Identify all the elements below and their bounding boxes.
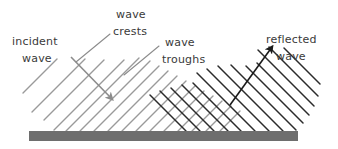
reflected-wavefront <box>207 69 269 131</box>
leader-line-group <box>76 34 159 75</box>
reflected-direction-arrow <box>230 47 272 105</box>
wave-crests-label-line2: crests <box>113 25 147 38</box>
incident-wave-label-line2: wave <box>22 52 52 65</box>
incident-wavefront <box>150 86 195 131</box>
incident-wavefront <box>32 59 85 112</box>
label-group: incident wave wave crests wave troughs r… <box>12 8 317 66</box>
wave-crests-label-line1: wave <box>116 8 146 21</box>
incident-wavefront <box>54 60 124 130</box>
reflected-wavefront <box>246 66 303 123</box>
reflected-wavefront <box>193 83 241 131</box>
wave-troughs-label-line1: wave <box>165 36 195 49</box>
reflecting-surface <box>29 131 298 141</box>
incident-wavefront <box>94 66 159 131</box>
reflected-wave-label-line2: wave <box>276 50 306 63</box>
incident-wavefront <box>66 58 139 131</box>
reflected-wavefront <box>182 85 228 131</box>
wave-reflection-diagram: incident wave wave crests wave troughs r… <box>0 0 338 149</box>
incident-wavefront <box>80 61 150 131</box>
crests-leader-line <box>76 34 110 62</box>
incident-wavefront <box>44 60 104 120</box>
incident-wavefront <box>122 76 177 131</box>
reflected-wavefront <box>257 63 309 115</box>
wave-troughs-label-line2: troughs <box>162 53 205 66</box>
diagram-canvas: incident wave wave crests wave troughs r… <box>0 0 338 149</box>
reflected-wave-label-line1: reflected <box>266 33 317 46</box>
incident-wave-label-line1: incident <box>12 35 58 48</box>
reflected-wavefront <box>231 65 296 130</box>
